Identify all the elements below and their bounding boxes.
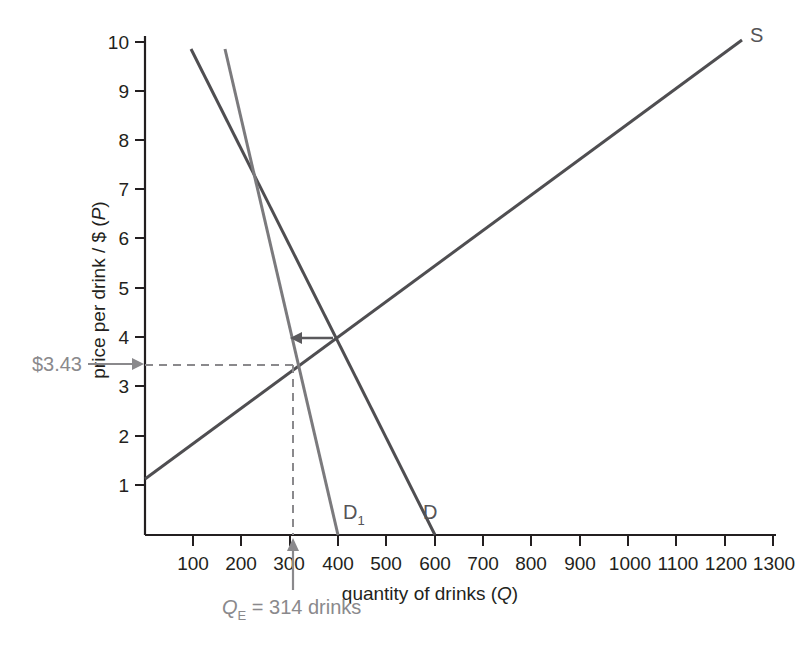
equilibrium-quantity-label: QE = 314 drinks <box>222 596 361 623</box>
x-tick-1000: 1000 <box>609 553 651 574</box>
y-tick-4: 4 <box>118 327 129 348</box>
x-tick-400: 400 <box>322 553 354 574</box>
x-tick-300: 300 <box>273 553 305 574</box>
equilibrium-quantity-variable: Q <box>222 596 238 618</box>
y-axis-title-variable: P <box>88 207 109 220</box>
demand-shift-arrow-icon <box>290 332 333 344</box>
x-tick-500: 500 <box>370 553 402 574</box>
y-tick-2: 2 <box>118 426 129 447</box>
x-axis-title: quantity of drinks (Q) <box>342 583 518 604</box>
x-tick-200: 200 <box>225 553 257 574</box>
demand-curve-D1 <box>225 49 338 535</box>
y-tick-6: 6 <box>118 228 129 249</box>
demand-shifted-label-text: D <box>343 501 357 523</box>
demand-curve-shifted-label: D1 <box>343 501 365 528</box>
y-tick-8: 8 <box>118 130 129 151</box>
y-tick-5: 5 <box>118 278 129 299</box>
equilibrium-quantity-subscript: E <box>238 608 247 623</box>
x-tick-700: 700 <box>467 553 499 574</box>
supply-curve-S <box>145 40 742 479</box>
x-tick-600: 600 <box>419 553 451 574</box>
x-tick-800: 800 <box>515 553 547 574</box>
demand-curve-label: D <box>423 501 437 523</box>
y-tick-3: 3 <box>118 376 129 397</box>
y-axis-title: price per drink / $ (P) <box>88 201 109 378</box>
y-axis-tick-labels: 10 9 8 7 6 5 4 3 2 1 <box>108 32 130 496</box>
x-axis-ticks <box>193 535 773 546</box>
supply-demand-chart: 10 9 8 7 6 5 4 3 2 1 <box>0 0 803 650</box>
x-tick-900: 900 <box>564 553 596 574</box>
y-axis-title-prefix: price per drink / $ ( <box>88 220 109 379</box>
equilibrium-quantity-value: = 314 drinks <box>246 596 361 618</box>
y-tick-7: 7 <box>118 179 129 200</box>
y-tick-10: 10 <box>108 32 129 53</box>
x-tick-1100: 1100 <box>658 553 699 574</box>
y-tick-1: 1 <box>118 475 129 496</box>
x-axis-title-prefix: quantity of drinks ( <box>342 583 498 604</box>
x-axis-title-variable: Q <box>497 583 512 604</box>
demand-shifted-label-subscript: 1 <box>357 513 364 528</box>
x-axis-tick-labels: 100 200 300 400 500 600 700 800 900 1000… <box>177 553 795 574</box>
equilibrium-price-label: $3.43 <box>32 353 82 375</box>
x-tick-1300: 1300 <box>753 553 795 574</box>
y-axis-title-suffix: ) <box>88 201 109 207</box>
x-axis-title-suffix: ) <box>512 583 518 604</box>
chart-canvas: 10 9 8 7 6 5 4 3 2 1 <box>0 0 803 650</box>
supply-curve-label: S <box>750 24 763 46</box>
y-tick-9: 9 <box>118 81 129 102</box>
x-tick-1200: 1200 <box>705 553 747 574</box>
y-axis-ticks <box>135 42 145 485</box>
x-tick-100: 100 <box>177 553 209 574</box>
equilibrium-quantity-callout: QE = 314 drinks <box>222 538 361 623</box>
demand-curve-label-text: D <box>423 501 437 523</box>
